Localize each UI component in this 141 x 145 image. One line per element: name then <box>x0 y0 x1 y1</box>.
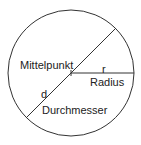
circle-diagram: Mittelpunkt r Radius d Durchmesser <box>0 0 141 145</box>
diameter-label: Durchmesser <box>42 104 107 116</box>
diameter-symbol: d <box>41 88 47 100</box>
circle-graphic <box>0 0 141 145</box>
radius-symbol: r <box>102 63 106 75</box>
center-label: Mittelpunkt <box>20 59 73 71</box>
radius-label: Radius <box>90 76 124 88</box>
